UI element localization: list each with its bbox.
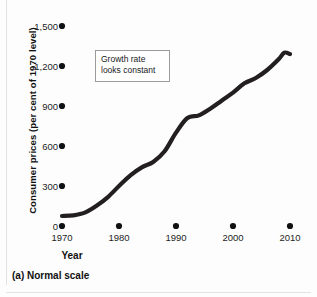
data-series-group xyxy=(62,52,290,216)
series-line-consumer-prices xyxy=(62,52,290,216)
tick-dot-group xyxy=(59,23,293,229)
y-tick-dot-0 xyxy=(59,223,65,229)
y-tick-dot-1500 xyxy=(59,23,65,29)
y-tick-dot-1200 xyxy=(59,63,65,69)
x-tick-dot-1980 xyxy=(116,223,122,229)
x-tick-dot-2000 xyxy=(230,223,236,229)
y-tick-dot-300 xyxy=(59,183,65,189)
y-tick-dot-600 xyxy=(59,143,65,149)
x-tick-dot-2010 xyxy=(287,223,293,229)
figure-panel: Consumer prices (per cent of 1970 level)… xyxy=(0,0,317,297)
y-tick-dot-900 xyxy=(59,103,65,109)
plot-area xyxy=(0,0,317,297)
x-tick-dot-1990 xyxy=(173,223,179,229)
